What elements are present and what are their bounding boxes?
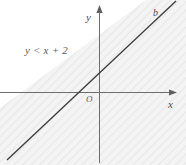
x-axis-label: x bbox=[168, 99, 173, 110]
inequality-annotation: y < x + 2 bbox=[25, 45, 68, 56]
boundary-line-label: b bbox=[153, 8, 158, 18]
y-axis-arrowhead bbox=[96, 5, 102, 13]
coordinate-plane-svg bbox=[0, 0, 186, 165]
inequality-graph-figure: y x O b y < x + 2 bbox=[0, 0, 186, 165]
y-axis-label: y bbox=[86, 12, 91, 23]
origin-label: O bbox=[86, 95, 93, 104]
